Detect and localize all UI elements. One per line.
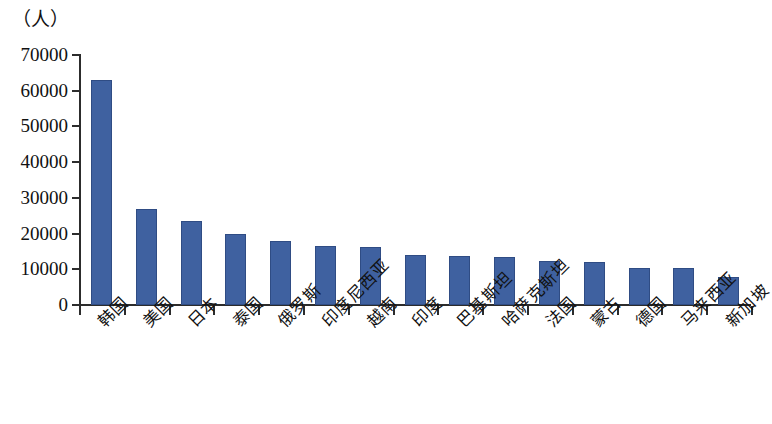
bar xyxy=(225,234,246,305)
x-axis-tick xyxy=(79,306,81,315)
bar xyxy=(136,209,157,305)
y-axis-tick-label: 10000 xyxy=(0,259,68,278)
bar xyxy=(181,221,202,305)
bar xyxy=(673,268,694,305)
y-axis-unit-label: （人） xyxy=(12,4,69,31)
bar xyxy=(91,80,112,305)
y-axis-tick-label: 30000 xyxy=(0,188,68,207)
y-axis-tick-label: 0 xyxy=(0,295,68,314)
y-axis-tick-label: 50000 xyxy=(0,116,68,135)
y-axis-tick-label: 40000 xyxy=(0,152,68,171)
bar xyxy=(449,256,470,305)
bars-layer xyxy=(79,55,751,305)
bar xyxy=(405,255,426,305)
y-axis-tick-label: 20000 xyxy=(0,224,68,243)
y-axis-tick-label: 70000 xyxy=(0,45,68,64)
bar xyxy=(270,241,291,305)
bar xyxy=(629,268,650,306)
bar xyxy=(584,262,605,305)
y-axis-tick-label: 60000 xyxy=(0,81,68,100)
